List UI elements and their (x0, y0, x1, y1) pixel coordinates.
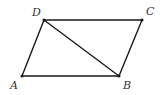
parallelogram-diagram: A B C D (0, 0, 162, 95)
diagram-canvas: A B C D (0, 0, 162, 95)
diagonal-db (44, 20, 119, 76)
vertex-label-b: B (122, 79, 131, 92)
vertex-d-dot (43, 19, 46, 22)
vertex-label-c: C (146, 5, 155, 18)
vertex-b-dot (118, 75, 121, 78)
vertex-label-a: A (9, 79, 18, 92)
edge-da (22, 20, 44, 76)
edge-bc (119, 20, 142, 76)
vertex-c-dot (141, 19, 144, 22)
vertex-label-d: D (31, 6, 41, 19)
vertex-a-dot (21, 75, 24, 78)
